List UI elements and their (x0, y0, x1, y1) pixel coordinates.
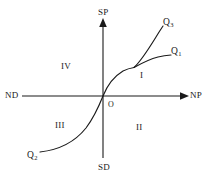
curve-label-q2-base: Q (27, 150, 34, 160)
quadrant-label-i: I (140, 71, 143, 80)
axis-label-np: NP (190, 91, 202, 100)
axis-label-sd: SD (98, 163, 110, 172)
curve-label-q2: Q2 (27, 151, 37, 161)
np-arrowhead-icon (180, 92, 189, 100)
curve-label-q1-subscript: 1 (178, 50, 181, 57)
curve-label-q3-subscript: 3 (170, 21, 173, 28)
quadrant-label-iii: III (55, 121, 65, 130)
sp-arrowhead-icon (99, 18, 107, 27)
curve-label-q3-base: Q (163, 17, 170, 27)
quadrant-label-ii: II (136, 123, 142, 132)
axis-label-nd: ND (5, 91, 19, 100)
branch-curve-q3 (134, 26, 163, 68)
curve-label-q3: Q3 (163, 18, 173, 28)
curve-label-q1: Q1 (171, 47, 181, 57)
quadrant-label-iv: IV (61, 62, 71, 71)
axis-label-sp: SP (98, 8, 109, 17)
origin-label-o: O (108, 101, 114, 109)
sigmoid-main-curve (40, 68, 134, 153)
curve-label-q2-subscript: 2 (34, 154, 37, 161)
diagram-canvas: SP SD ND NP O I II III IV Q1 Q2 Q3 (0, 0, 208, 185)
curve-label-q1-base: Q (171, 46, 178, 56)
